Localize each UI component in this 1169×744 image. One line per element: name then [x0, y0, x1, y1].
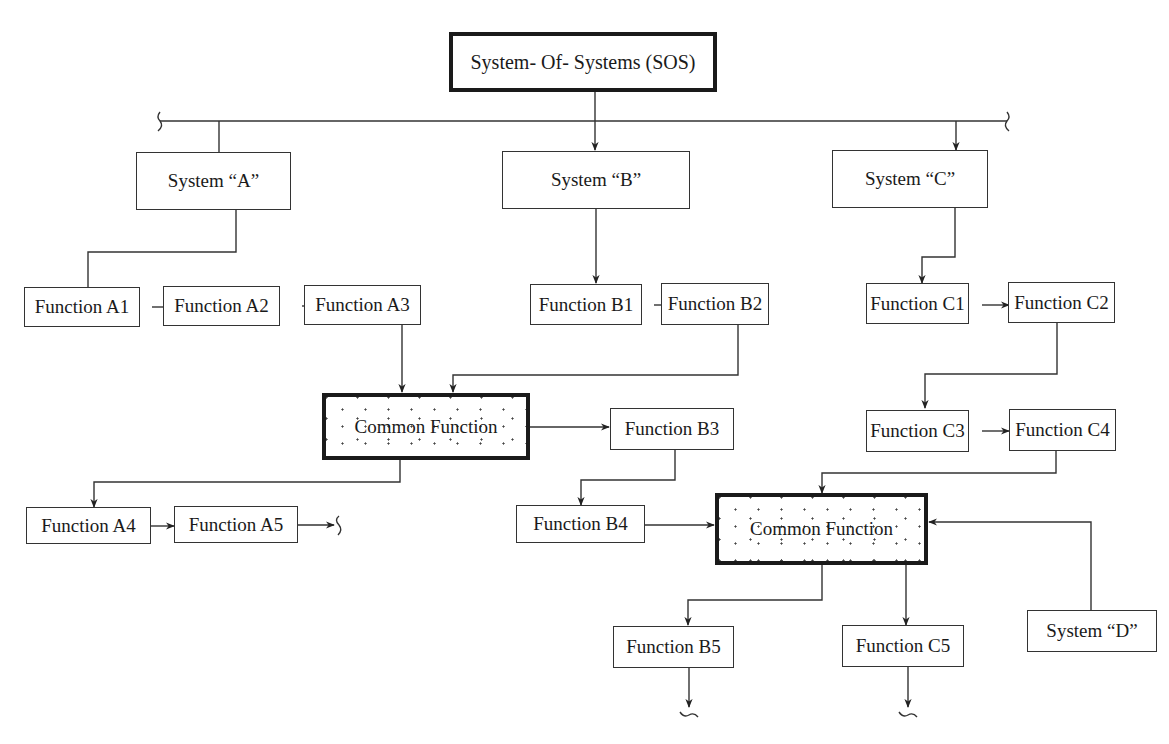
system-c-box: System “C”: [832, 150, 988, 208]
function-a4-label: Function A4: [41, 515, 135, 537]
function-c3-label: Function C3: [870, 420, 964, 442]
function-a2-label: Function A2: [174, 295, 268, 317]
function-a4-box: Function A4: [26, 507, 151, 544]
common-function-label-1: Common Function: [354, 416, 497, 438]
function-a5-label: Function A5: [189, 514, 283, 536]
break-symbol-b5: [680, 712, 698, 717]
function-c5-box: Function C5: [842, 625, 964, 667]
function-a5-box: Function A5: [174, 506, 298, 543]
function-a3-label: Function A3: [315, 294, 409, 316]
function-a2-box: Function A2: [163, 286, 280, 326]
function-b3-label: Function B3: [625, 418, 719, 440]
common-function-box-2: Common Function: [715, 493, 928, 565]
system-b-label: System “B”: [551, 169, 641, 191]
function-b2-label: Function B2: [668, 293, 762, 315]
function-c4-box: Function C4: [1009, 409, 1116, 451]
sos-root-box: System- Of- Systems (SOS): [449, 32, 717, 92]
connector-lines: [0, 0, 1169, 744]
function-a1-label: Function A1: [35, 296, 129, 318]
system-a-box: System “A”: [136, 152, 291, 210]
system-c-label: System “C”: [865, 168, 955, 190]
function-b4-label: Function B4: [533, 513, 627, 535]
function-a1-box: Function A1: [24, 287, 140, 327]
break-symbol-a5: [337, 516, 341, 535]
system-b-box: System “B”: [502, 151, 690, 209]
function-c3-box: Function C3: [866, 410, 969, 452]
function-b5-box: Function B5: [613, 626, 734, 668]
function-c1-label: Function C1: [870, 293, 964, 315]
function-b3-box: Function B3: [610, 408, 734, 450]
sos-diagram: System- Of- Systems (SOS) System “A” Sys…: [0, 0, 1169, 744]
break-symbol-right: [1005, 112, 1009, 131]
function-c2-label: Function C2: [1014, 292, 1108, 314]
function-a3-box: Function A3: [304, 285, 421, 325]
system-a-label: System “A”: [168, 170, 259, 192]
break-symbol-left: [158, 112, 162, 131]
function-b2-box: Function B2: [661, 283, 769, 325]
common-function-box-1: Common Function: [322, 393, 530, 460]
function-c4-label: Function C4: [1015, 419, 1109, 441]
system-d-box: System “D”: [1027, 610, 1157, 652]
function-c2-box: Function C2: [1008, 282, 1115, 323]
function-b5-label: Function B5: [626, 636, 720, 658]
function-c5-label: Function C5: [856, 635, 950, 657]
function-b1-label: Function B1: [539, 294, 633, 316]
common-function-label-2: Common Function: [750, 518, 893, 540]
system-d-label: System “D”: [1046, 620, 1137, 642]
function-b4-box: Function B4: [516, 505, 645, 543]
function-c1-box: Function C1: [866, 283, 969, 324]
sos-root-label: System- Of- Systems (SOS): [470, 51, 695, 74]
break-symbol-c5: [899, 712, 917, 717]
function-b1-box: Function B1: [530, 284, 642, 325]
